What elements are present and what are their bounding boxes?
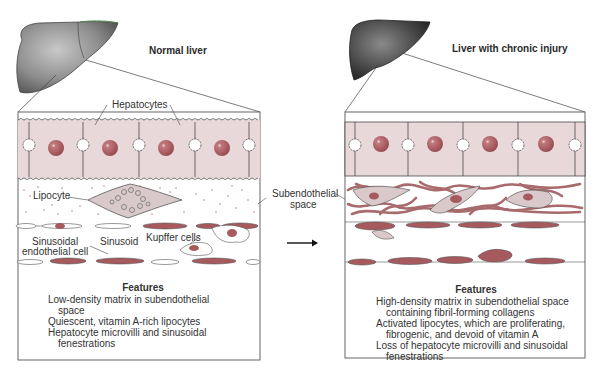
sinusoid-label: Sinusoid — [100, 236, 138, 247]
injured-liver-title: Liver with chronic injury — [452, 43, 568, 54]
kupffer-cells-label: Kupffer cells — [146, 232, 201, 243]
normal-features-box: Features Low-density matrix in subendoth… — [48, 282, 238, 349]
injured-features-box: Features High-density matrix in subendot… — [376, 284, 576, 362]
feature-item: Hepatocyte microvilli and sinusoidal fen… — [48, 327, 208, 349]
lipocyte-label: Lipocyte — [33, 190, 70, 201]
feature-item: Loss of hepatocyte microvilli and sinuso… — [376, 340, 576, 362]
endothelial-cell-label-line2: endothelial cell — [22, 246, 88, 257]
subendothelial-label-line2: space — [290, 199, 317, 210]
injured-liver-icon — [350, 20, 430, 80]
normal-liver-icon — [17, 21, 118, 93]
normal-liver-title: Normal liver — [149, 45, 207, 56]
feature-item: Low-density matrix in subendothelial spa… — [48, 294, 238, 316]
features-heading: Features — [48, 282, 238, 293]
feature-item: High-density matrix in subendothelial sp… — [376, 296, 576, 318]
feature-item: Activated lipocytes, which are prolifera… — [376, 318, 576, 340]
subendothelial-label-line1: Subendothelial — [272, 188, 338, 199]
right-arrow-icon — [287, 240, 318, 247]
feature-item: Quiescent, vitamin A-rich lipocytes — [48, 316, 238, 327]
features-heading: Features — [376, 284, 576, 295]
hepatocytes-label: Hepatocytes — [112, 99, 168, 110]
